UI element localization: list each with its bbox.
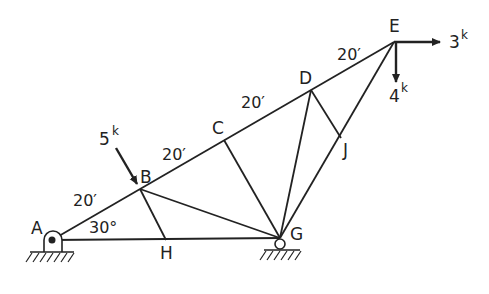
truss-diagram: A B C D E H G J 20′ 20′ 20′ 20′ 30° 5 k … xyxy=(0,0,489,294)
dimension-DE: 20′ xyxy=(337,45,361,64)
joint-label-D: D xyxy=(299,68,312,88)
load-value-E-horizontal: 3 xyxy=(449,32,460,52)
joint-label-E: E xyxy=(389,16,400,36)
joint-label-J: J xyxy=(342,140,348,160)
joint-label-H: H xyxy=(160,243,173,263)
joint-label-A: A xyxy=(31,218,43,238)
load-value-E-vertical: 4 xyxy=(389,86,400,106)
load-value-B: 5 xyxy=(99,129,110,149)
load-unit-E-horizontal: k xyxy=(461,28,468,42)
dimension-CD: 20′ xyxy=(241,93,265,112)
member-EG xyxy=(280,42,394,238)
load-arrow-B xyxy=(116,148,137,184)
load-unit-B: k xyxy=(112,124,119,138)
dimension-BC: 20′ xyxy=(162,145,186,164)
angle-label-A: 30° xyxy=(89,218,117,237)
member-DG xyxy=(280,90,311,238)
joint-label-G: G xyxy=(290,224,303,244)
joint-label-C: C xyxy=(212,118,224,138)
joint-label-B: B xyxy=(140,167,152,187)
member-CG xyxy=(224,140,280,238)
load-unit-E-vertical: k xyxy=(401,81,408,95)
dimension-AB: 20′ xyxy=(73,191,97,210)
member-DJ xyxy=(311,90,341,138)
